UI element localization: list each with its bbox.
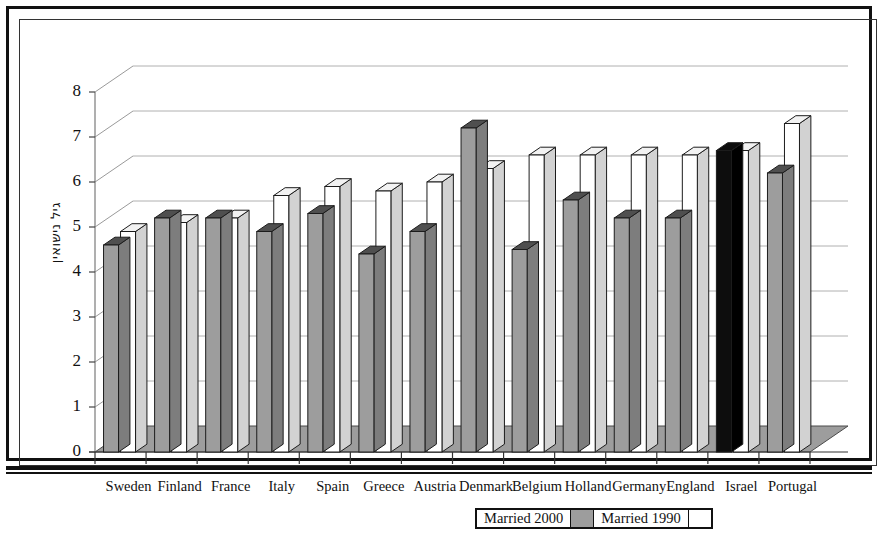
y-axis-tick-label: 8 xyxy=(59,81,81,101)
chart-svg xyxy=(0,0,881,533)
y-axis-tick-label: 2 xyxy=(59,351,81,371)
y-axis-tick-label: 7 xyxy=(59,126,81,146)
y-axis-title: גיל נישואין xyxy=(48,168,63,298)
chart-legend: Married 2000 Married 1990 xyxy=(475,508,713,529)
x-axis-category-labels: SwedenFinlandFranceItalySpainGreeceAustr… xyxy=(0,478,881,500)
x-axis-category-label: Portugal xyxy=(750,478,834,495)
legend-swatch-married-2000 xyxy=(571,510,594,527)
y-axis-tick-label: 3 xyxy=(59,306,81,326)
legend-label-married-1990: Married 1990 xyxy=(594,510,688,527)
chart-page: 012345678 גיל נישואין SwedenFinlandFranc… xyxy=(0,0,881,533)
y-axis-tick-label: 1 xyxy=(59,396,81,416)
legend-label-married-2000: Married 2000 xyxy=(477,510,571,527)
plot-area xyxy=(0,0,881,533)
y-axis-tick-label: 0 xyxy=(59,441,81,461)
legend-swatch-married-1990 xyxy=(689,510,711,527)
